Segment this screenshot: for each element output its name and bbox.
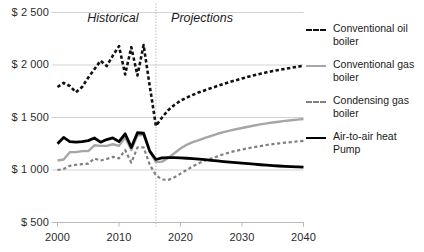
x-axis-label-2040: 2040 [281, 231, 327, 243]
legend-swatch-icon [306, 131, 326, 145]
legend-swatch-icon [306, 95, 326, 109]
series-line-conventional-gas-boiler [58, 119, 304, 162]
annotation-projections: Projections [142, 11, 262, 25]
x-axis-label-2010: 2010 [96, 231, 142, 243]
legend-item-air-to-air-heat-pump[interactable]: Air-to-air heat Pump [306, 130, 424, 156]
x-axis-label-2000: 2000 [35, 231, 81, 243]
y-axis-label-1500: $ 1 500 [0, 111, 49, 123]
legend-swatch-icon [306, 23, 326, 37]
y-axis-label-500: $ 500 [0, 216, 49, 228]
y-axis-label-2000: $ 2 000 [0, 58, 49, 70]
legend-label: Conventional gas boiler [333, 58, 424, 84]
legend-item-conventional-oil-boiler[interactable]: Conventional oil boiler [306, 22, 424, 48]
legend-label: Air-to-air heat Pump [333, 130, 424, 156]
legend-label: Conventional oil boiler [333, 22, 424, 48]
legend-item-condensing-gas-boiler[interactable]: Condensing gas boiler [306, 94, 424, 120]
y-axis-label-2500: $ 2 500 [0, 6, 49, 18]
series-line-conventional-oil-boiler [58, 45, 304, 126]
y-axis-label-1000: $ 1 000 [0, 163, 49, 175]
legend-swatch-icon [306, 59, 326, 73]
chart-legend: Conventional oil boilerConventional gas … [306, 22, 424, 166]
x-axis-label-2020: 2020 [158, 231, 204, 243]
x-axis-label-2030: 2030 [219, 231, 265, 243]
price-projection-chart: $ 2 500$ 2 000$ 1 500$ 1 000$ 500 200020… [0, 0, 424, 252]
legend-label: Condensing gas boiler [333, 94, 424, 120]
legend-item-conventional-gas-boiler[interactable]: Conventional gas boiler [306, 58, 424, 84]
